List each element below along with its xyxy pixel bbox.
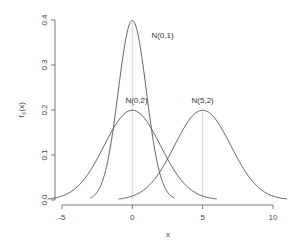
y-tick-label: 0.2 xyxy=(40,104,49,116)
curve-label: N(5,2) xyxy=(192,96,215,105)
x-axis: -50510 xyxy=(58,205,278,222)
x-tick-label: 0 xyxy=(130,213,135,222)
y-tick-label: 0.1 xyxy=(40,149,49,161)
x-axis-label: x xyxy=(166,230,170,239)
x-tick-label: 10 xyxy=(269,213,278,222)
curve-labels: N(0,1)N(0,2)N(5,2) xyxy=(125,31,214,105)
curve-label: N(0,1) xyxy=(151,31,174,40)
x-tick-label: -5 xyxy=(58,213,66,222)
reference-lines xyxy=(132,20,202,200)
y-tick-label: 0.3 xyxy=(40,59,49,71)
y-axis: 0.00.10.20.30.4 xyxy=(40,14,55,206)
y-tick-label: 0.4 xyxy=(40,14,49,26)
curve-label: N(0,2) xyxy=(125,96,148,105)
y-tick-label: 0.0 xyxy=(40,194,49,206)
density-curves xyxy=(48,20,287,199)
y-axis-label: fX(x) xyxy=(17,102,27,118)
x-tick-label: 5 xyxy=(200,213,205,222)
density-chart: 0.00.10.20.30.4 -50510 N(0,1)N(0,2)N(5,2… xyxy=(0,0,295,251)
